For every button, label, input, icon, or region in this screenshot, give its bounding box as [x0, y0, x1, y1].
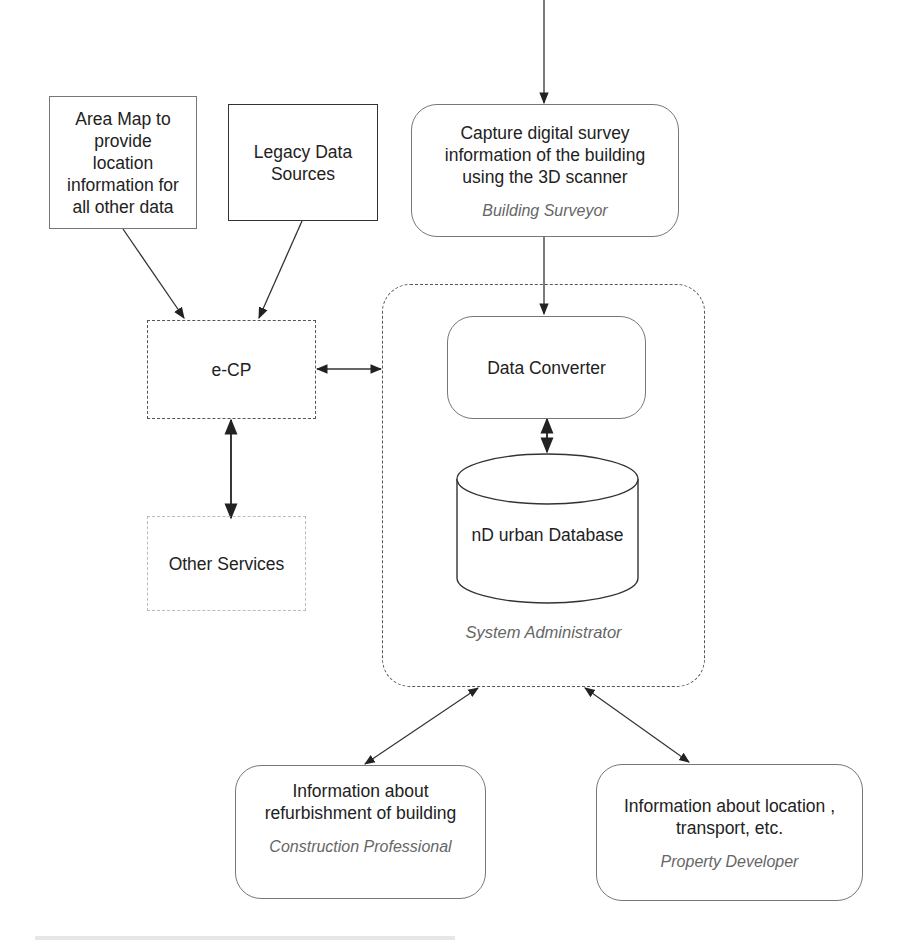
data-converter-label: Data Converter: [487, 357, 606, 379]
construction-line-2: refurbishment of building: [265, 802, 457, 824]
database-label: nD urban Database: [472, 524, 624, 546]
data-converter-box: Data Converter: [447, 316, 646, 419]
construction-professional-box: Information about refurbishment of build…: [235, 765, 486, 899]
cropped-caption-fragments: [35, 936, 455, 940]
other-services-label: Other Services: [169, 553, 285, 575]
property-line-1: Information about location ,: [624, 795, 835, 817]
system-admin-role: System Administrator: [465, 623, 621, 642]
construction-line-1: Information about: [292, 780, 428, 802]
capture-line-1: Capture digital survey: [460, 122, 629, 144]
property-line-2: transport, etc.: [676, 817, 783, 839]
property-role: Property Developer: [661, 853, 799, 871]
area-map-line-3: location: [93, 152, 153, 174]
arrow-legacy-to-ecp: [259, 221, 302, 318]
capture-line-2: information of the building: [445, 144, 645, 166]
construction-role: Construction Professional: [269, 838, 451, 856]
database-label-wrap: nD urban Database: [457, 505, 638, 565]
area-map-box: Area Map to provide location information…: [49, 96, 197, 229]
legacy-data-sources-box: Legacy Data Sources: [228, 104, 378, 221]
property-developer-box: Information about location , transport, …: [596, 764, 863, 901]
ecp-label: e-CP: [212, 359, 252, 381]
capture-role: Building Surveyor: [482, 202, 607, 220]
capture-line-3: using the 3D scanner: [462, 166, 627, 188]
legacy-line-2: Sources: [271, 163, 335, 185]
area-map-line-2: provide: [94, 130, 151, 152]
legacy-line-1: Legacy Data: [254, 141, 352, 163]
arrow-group-construction: [365, 688, 478, 764]
area-map-line-5: all other data: [72, 196, 173, 218]
area-map-line-1: Area Map to: [75, 108, 170, 130]
arrow-group-property: [585, 688, 689, 762]
area-map-line-4: information for: [67, 174, 179, 196]
ecp-box: e-CP: [147, 320, 316, 419]
capture-survey-box: Capture digital survey information of th…: [411, 104, 679, 237]
arrow-areamap-to-ecp: [123, 229, 184, 318]
other-services-box: Other Services: [147, 516, 306, 611]
